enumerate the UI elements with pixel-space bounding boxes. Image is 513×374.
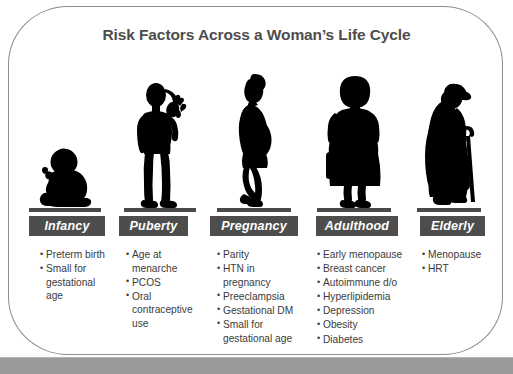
elderly-woman-cane-silhouette: [423, 80, 481, 208]
risk-item: Autoimmune d/o: [317, 276, 412, 290]
risk-item: Age at menarche: [126, 248, 206, 275]
risk-item: Menopause: [422, 248, 497, 262]
risk-list-puberty: Age at menarchePCOSOral contraceptive us…: [126, 248, 206, 331]
figure-area-elderly: [407, 66, 497, 208]
pregnant-woman-silhouette: [226, 72, 282, 208]
figure-area-adulthood: [302, 66, 407, 208]
risk-list-pregnancy: ParityHTN in pregnancyPreeclampsiaGestat…: [217, 248, 305, 346]
girl-waving-silhouette: [131, 80, 189, 208]
adult-woman-handbag-silhouette: [324, 74, 386, 208]
risk-item: Parity: [217, 248, 305, 262]
stage-column-adulthood: Adulthood Early menopauseBreast cancerAu…: [302, 66, 407, 346]
ground-bar-elderly: [417, 208, 481, 212]
risk-item: Depression: [317, 304, 412, 318]
figure-area-infancy: [16, 66, 114, 208]
risk-item: HRT: [422, 262, 497, 276]
page-title: Risk Factors Across a Woman’s Life Cycle: [0, 26, 513, 44]
stage-label-adulthood: Adulthood: [316, 216, 398, 236]
risk-item: Small for gestational age: [40, 262, 114, 303]
stage-label-infancy: Infancy: [29, 216, 105, 236]
ground-bar-adulthood: [317, 208, 391, 212]
risk-item: Gestational DM: [217, 304, 305, 318]
risk-item: PCOS: [126, 276, 206, 290]
stage-column-infancy: Infancy Preterm birthSmall for gestation…: [16, 66, 114, 346]
ground-bar-pregnancy: [217, 208, 291, 212]
stage-label-pregnancy: Pregnancy: [210, 216, 298, 236]
baby-sitting-silhouette: [34, 146, 96, 208]
risk-item: Small for gestational age: [217, 318, 305, 345]
life-cycle-stage-columns: Infancy Preterm birthSmall for gestation…: [16, 66, 497, 346]
stage-column-puberty: Puberty Age at menarchePCOSOral contrace…: [114, 66, 206, 346]
risk-item: Preeclampsia: [217, 290, 305, 304]
ground-bar-infancy: [29, 208, 101, 212]
risk-item: Preterm birth: [40, 248, 114, 262]
risk-list-elderly: MenopauseHRT: [422, 248, 497, 276]
risk-item: Breast cancer: [317, 262, 412, 276]
risk-item: Hyperlipidemia: [317, 290, 412, 304]
figure-area-puberty: [114, 66, 206, 208]
stage-column-elderly: Elderly MenopauseHRT: [407, 66, 497, 346]
risk-item: HTN in pregnancy: [217, 262, 305, 289]
risk-item: Early menopause: [317, 248, 412, 262]
slide-footer-bar: [0, 357, 513, 374]
risk-list-infancy: Preterm birthSmall for gestational age: [40, 248, 114, 303]
stage-label-elderly: Elderly: [420, 216, 485, 236]
ground-bar-puberty: [124, 208, 196, 212]
stage-label-puberty: Puberty: [119, 216, 188, 236]
stage-column-pregnancy: Pregnancy ParityHTN in pregnancyPreeclam…: [206, 66, 302, 346]
risk-item: Diabetes: [317, 333, 412, 347]
risk-list-adulthood: Early menopauseBreast cancerAutoimmune d…: [317, 248, 412, 347]
risk-item: Obesity: [317, 318, 412, 332]
risk-item: Oral contraceptive use: [126, 290, 206, 331]
figure-area-pregnancy: [206, 66, 302, 208]
